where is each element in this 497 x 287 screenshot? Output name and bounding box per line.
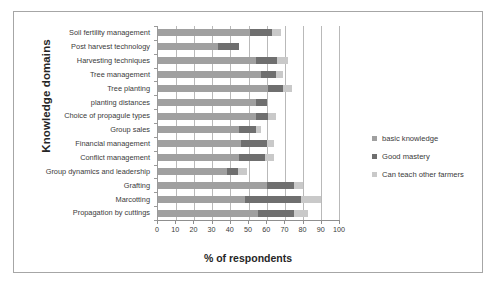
x-axis-tick-label: 0 <box>147 225 167 234</box>
bar-row <box>158 109 339 123</box>
bar-segment <box>272 29 281 36</box>
x-axis-tick-label: 60 <box>256 225 276 234</box>
bar-segment <box>265 154 274 161</box>
y-axis-category-label: Financial management <box>48 137 153 151</box>
y-axis-category-label: Group dynamics and leadership <box>48 165 153 179</box>
bar-row <box>158 137 339 151</box>
bar-segment <box>268 85 282 92</box>
stacked-bar <box>158 168 339 175</box>
y-axis-tick <box>154 165 157 166</box>
bar-segment <box>267 182 294 189</box>
x-axis-tick <box>339 220 340 224</box>
bar-segment <box>267 140 274 147</box>
y-axis-category-label: Propagation by cuttings <box>48 206 153 220</box>
y-axis-tick <box>154 40 157 41</box>
x-axis-tick-label: 70 <box>274 225 294 234</box>
y-axis-category-label: Tree management <box>48 68 153 82</box>
y-axis-tick <box>154 68 157 69</box>
legend-item: basic knowledge <box>372 134 497 143</box>
stacked-bar <box>158 154 339 161</box>
bar-segment <box>256 126 261 133</box>
bar-row <box>158 54 339 68</box>
bar-segment <box>256 99 267 106</box>
bar-segment <box>158 154 239 161</box>
bar-row <box>158 178 339 192</box>
bar-segment <box>256 57 278 64</box>
x-axis-tick-label: 80 <box>293 225 313 234</box>
y-axis-tick <box>154 151 157 152</box>
stacked-bar <box>158 43 339 50</box>
x-axis-tick-label: 10 <box>165 225 185 234</box>
bar-segment <box>158 99 256 106</box>
x-axis-tick <box>193 220 194 224</box>
bar-row <box>158 26 339 40</box>
x-axis-tick-labels: 0102030405060708090100 <box>147 225 349 237</box>
x-axis-tick <box>284 220 285 224</box>
stacked-bar <box>158 29 339 36</box>
bar-row <box>158 123 339 137</box>
y-axis-tick <box>154 178 157 179</box>
stacked-bar <box>158 99 339 106</box>
bar-row <box>158 40 339 54</box>
bar-segment <box>250 29 272 36</box>
y-axis-category-label: Post harvest technology <box>48 40 153 54</box>
bar-segment <box>227 168 238 175</box>
x-axis-tick-label: 100 <box>329 225 349 234</box>
chart-bars <box>158 26 339 220</box>
bar-segment <box>239 126 255 133</box>
bar-segment <box>158 57 256 64</box>
x-axis-tick <box>230 220 231 224</box>
bar-segment <box>276 71 283 78</box>
bar-row <box>158 206 339 220</box>
chart-legend: basic knowledgeGood masteryCan teach oth… <box>372 134 497 188</box>
legend-label: Can teach other farmers <box>382 170 464 179</box>
bar-segment <box>218 43 240 50</box>
bar-segment <box>245 196 301 203</box>
bar-row <box>158 165 339 179</box>
y-axis-tick <box>154 123 157 124</box>
bar-row <box>158 81 339 95</box>
bar-segment <box>158 140 241 147</box>
x-axis-tick-label: 40 <box>220 225 240 234</box>
stacked-bar <box>158 210 339 217</box>
bar-segment <box>238 168 247 175</box>
bar-row <box>158 95 339 109</box>
x-axis-title: % of respondents <box>157 252 339 264</box>
bar-segment <box>241 140 266 147</box>
y-axis-category-label: Choice of propagule types <box>48 109 153 123</box>
bar-segment <box>294 182 303 189</box>
y-axis-category-label: planting distances <box>48 95 153 109</box>
y-axis-tick <box>154 81 157 82</box>
legend-label: Good mastery <box>382 152 430 161</box>
bar-segment <box>158 126 239 133</box>
legend-swatch-icon <box>372 154 377 159</box>
y-axis-tick <box>154 109 157 110</box>
bar-segment <box>294 210 308 217</box>
legend-swatch-icon <box>372 172 377 177</box>
stacked-bar <box>158 113 339 120</box>
x-axis-tick <box>175 220 176 224</box>
bar-row <box>158 68 339 82</box>
x-axis-tick <box>321 220 322 224</box>
stacked-bar <box>158 182 339 189</box>
y-axis-tick <box>154 137 157 138</box>
bar-segment <box>158 29 250 36</box>
bar-segment <box>158 196 245 203</box>
bar-segment <box>277 57 288 64</box>
bar-segment <box>158 43 218 50</box>
bar-segment <box>158 71 261 78</box>
x-axis-tick <box>157 220 158 224</box>
bar-segment <box>158 182 267 189</box>
bar-segment <box>239 154 264 161</box>
y-axis-category-labels: Soil fertility managementPost harvest te… <box>48 26 153 220</box>
x-axis-tick <box>303 220 304 224</box>
bar-segment <box>301 196 321 203</box>
stacked-bar <box>158 196 339 203</box>
bar-segment <box>158 168 227 175</box>
bar-segment <box>158 85 268 92</box>
chart-plot-area <box>157 26 339 220</box>
bar-segment <box>261 71 275 78</box>
y-axis-category-label: Marcotting <box>48 192 153 206</box>
bar-row <box>158 151 339 165</box>
legend-swatch-icon <box>372 136 377 141</box>
